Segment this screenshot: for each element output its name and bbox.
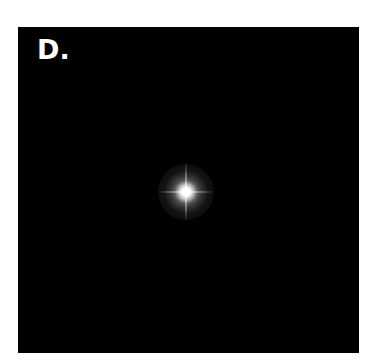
star-core bbox=[181, 187, 191, 197]
image-panel: D. bbox=[18, 27, 359, 353]
panel-label: D. bbox=[37, 35, 70, 65]
